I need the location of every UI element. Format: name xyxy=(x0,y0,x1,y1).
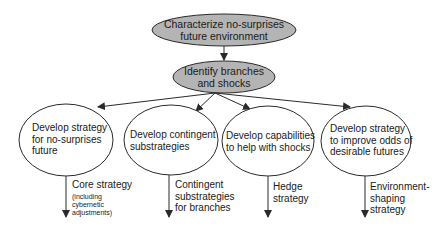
output-1-note: (including cybernetic adjustments) xyxy=(72,193,112,217)
branch-1-label: Develop strategy for no-surprises future xyxy=(32,122,107,157)
arrow-to-branch-4 xyxy=(215,93,350,107)
top-node-label: Characterize no-surprises future environ… xyxy=(164,18,284,42)
output-1-label: Core strategy xyxy=(72,179,132,191)
output-4-label: Environment- shaping strategy xyxy=(370,181,429,216)
output-2-label: Contingent substrategies for branches xyxy=(175,179,234,214)
branch-2-label: Develop contingent substrategies xyxy=(130,129,216,152)
middle-node-label: Identify branches and shocks xyxy=(184,65,264,89)
arrow-to-branch-3 xyxy=(215,93,250,109)
branch-3-label: Develop capabilities to help with shocks xyxy=(226,130,315,153)
arrow-to-branch-2 xyxy=(196,93,215,111)
branch-4-label: Develop strategy to improve odds of desi… xyxy=(330,123,412,158)
arrow-to-branch-1 xyxy=(98,93,215,107)
output-3-label: Hedge strategy xyxy=(273,181,309,204)
